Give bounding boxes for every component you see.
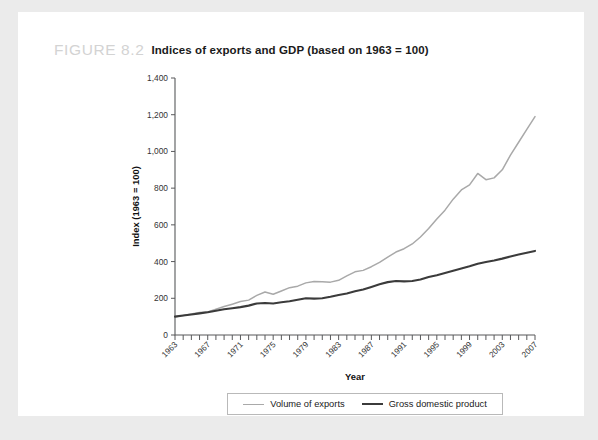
chart-axes	[175, 78, 535, 335]
x-axis-tick-label: 1999	[455, 340, 475, 360]
x-axis-tick-label: 1991	[389, 340, 409, 360]
x-axis-tick-label: 1971	[226, 340, 246, 360]
line-chart: 02004006008001,0001,2001,400Index (1963 …	[18, 12, 598, 440]
x-axis-tick-label: 2007	[520, 340, 540, 360]
legend-swatch-gdp-icon	[362, 403, 383, 405]
y-axis-tick-label: 1,400	[147, 73, 168, 83]
x-axis-tick-label: 1979	[291, 340, 311, 360]
y-axis-title: Index (1963 = 100)	[130, 166, 141, 247]
x-axis-tick-label: 1983	[324, 340, 344, 360]
legend-item-exports: Volume of exports	[243, 399, 344, 409]
x-axis-tick-label: 1963	[160, 340, 180, 360]
x-axis-tick-label: 1967	[193, 340, 213, 360]
legend-swatch-exports-icon	[243, 404, 264, 405]
y-axis-tick-label: 400	[154, 257, 168, 267]
x-axis-tick-label: 2003	[487, 340, 507, 360]
x-axis-tick-label: 1975	[258, 340, 278, 360]
y-axis-tick-label: 0	[163, 330, 168, 340]
legend-label-exports: Volume of exports	[270, 399, 344, 409]
y-axis-tick-label: 800	[154, 183, 168, 193]
x-axis-tick-label: 1995	[422, 340, 442, 360]
legend-label-gdp: Gross domestic product	[389, 399, 487, 409]
y-axis-tick-label: 1,200	[147, 110, 168, 120]
x-axis-title: Year	[345, 371, 365, 382]
page-background: FIGURE 8.2Indices of exports and GDP (ba…	[0, 0, 598, 440]
y-axis-tick-label: 600	[154, 220, 168, 230]
legend-item-gdp: Gross domestic product	[362, 399, 487, 409]
series-line-exports	[175, 117, 535, 317]
y-axis-tick-label: 1,000	[147, 146, 168, 156]
chart-legend: Volume of exports Gross domestic product	[227, 393, 503, 415]
x-axis-tick-label: 1987	[357, 340, 377, 360]
chart-plot-area: 02004006008001,0001,2001,400Index (1963 …	[18, 12, 598, 440]
y-axis-tick-label: 200	[154, 293, 168, 303]
figure-card: FIGURE 8.2Indices of exports and GDP (ba…	[18, 12, 584, 416]
series-line-gdp	[175, 251, 535, 317]
